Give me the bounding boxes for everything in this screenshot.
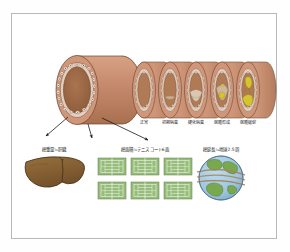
tennis-court xyxy=(98,158,126,175)
liver-illustration xyxy=(25,157,84,187)
tennis-court-grid xyxy=(98,158,192,199)
tennis-court xyxy=(131,182,159,199)
comparison-label-weight: 総重量≒肝臓 xyxy=(42,147,66,152)
tennis-court xyxy=(164,158,192,175)
stage-label-plaque-rupture: 粥腫破綻 xyxy=(240,120,256,125)
tennis-court xyxy=(164,182,192,199)
stage-label-normal: 正常 xyxy=(140,120,148,125)
globe-illustration xyxy=(197,156,245,200)
diagram-frame: 正常 初期病変 硬化病変 粥腫形成 粥腫破綻 総重量≒肝臓 総面積≒テニスコート… xyxy=(11,13,277,239)
stage-label-atheroma-formation: 粥腫形成 xyxy=(214,120,230,125)
arrow-to-liver xyxy=(46,117,68,136)
stage-label-sclerotic-lesion: 硬化病変 xyxy=(188,120,204,125)
stage-label-early-lesion: 初期病変 xyxy=(162,120,178,125)
comparison-label-area: 総面積≒テニスコート6面 xyxy=(121,147,169,152)
main-vessel-illustration xyxy=(56,56,142,125)
stage-5-plaque-rupture xyxy=(237,62,277,118)
slide-canvas: 正常 初期病変 硬化病変 粥腫形成 粥腫破綻 総重量≒肝臓 総面積≒テニスコート… xyxy=(0,0,290,252)
tennis-court xyxy=(98,182,126,199)
diagram-svg xyxy=(12,14,278,240)
arrow-to-tennis xyxy=(88,124,92,138)
comparison-label-length: 総延長≒地球2.5周 xyxy=(203,147,239,152)
tennis-court xyxy=(131,158,159,175)
